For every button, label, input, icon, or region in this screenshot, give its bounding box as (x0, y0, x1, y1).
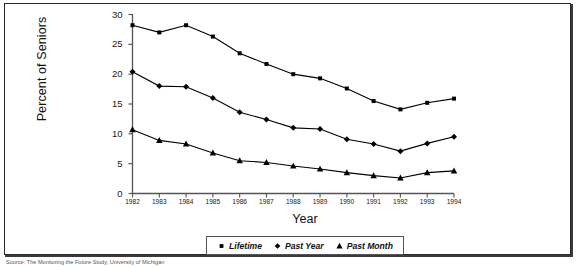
data-point (371, 141, 377, 147)
data-point (131, 23, 135, 27)
legend-label: Past Month (347, 241, 393, 251)
chart-frame: Percent of Seniors Year 051015202530 198… (4, 3, 571, 255)
series-lifetime (131, 23, 457, 111)
square-marker-icon (217, 241, 226, 250)
data-point (424, 140, 430, 146)
series-line (133, 72, 455, 151)
data-point (397, 148, 403, 154)
data-point (398, 107, 402, 111)
series-past-year (130, 69, 458, 154)
legend-label: Lifetime (229, 241, 262, 251)
data-point (211, 35, 215, 39)
data-point (263, 117, 269, 123)
series-line (133, 130, 455, 178)
data-point (451, 167, 457, 173)
chart-legend: LifetimePast YearPast Month (206, 236, 404, 255)
diamond-marker-icon (273, 241, 282, 250)
y-tick-label: 20 (97, 68, 123, 79)
legend-label: Past Year (285, 241, 324, 251)
x-tick-label: 1994 (434, 198, 474, 205)
legend-item-lifetime[interactable]: Lifetime (217, 241, 262, 251)
y-tick-label: 15 (97, 98, 123, 109)
data-point (318, 76, 322, 80)
y-tick-label: 25 (97, 38, 123, 49)
legend-item-past-month[interactable]: Past Month (335, 241, 393, 251)
data-point (317, 126, 323, 132)
y-tick-label: 0 (97, 188, 123, 199)
data-point (156, 83, 162, 89)
data-point (451, 134, 457, 140)
data-point (291, 72, 295, 76)
data-point (237, 109, 243, 115)
data-point (344, 136, 350, 142)
source-note: Source: The Monitoring the Future Study,… (6, 259, 426, 266)
data-point (129, 126, 135, 132)
y-tick-label: 5 (97, 158, 123, 169)
data-point (290, 125, 296, 131)
data-point (184, 23, 188, 27)
triangle-marker-icon (335, 241, 344, 250)
chart-figure: Percent of Seniors Year 051015202530 198… (0, 0, 578, 267)
series-line (133, 25, 455, 109)
y-tick-label: 10 (97, 128, 123, 139)
data-point (372, 99, 376, 103)
y-tick-label: 30 (97, 9, 123, 20)
data-point (345, 86, 349, 90)
data-point (183, 84, 189, 90)
data-point (264, 62, 268, 66)
data-point (157, 30, 161, 34)
data-point (425, 101, 429, 105)
plot-area (5, 4, 572, 256)
series-past-month (129, 126, 457, 180)
legend-item-past-year[interactable]: Past Year (273, 241, 324, 251)
data-point (210, 95, 216, 101)
data-point (452, 97, 456, 101)
data-point (238, 51, 242, 55)
series-layer (129, 23, 457, 180)
